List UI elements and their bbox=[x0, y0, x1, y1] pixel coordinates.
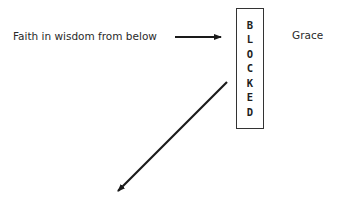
blocked-letter: L bbox=[247, 32, 253, 47]
blocked-letter: D bbox=[247, 105, 253, 120]
diagonal-arrow-icon bbox=[118, 82, 227, 191]
blocked-letter: O bbox=[247, 47, 253, 62]
blocked-letter: K bbox=[247, 76, 253, 91]
faith-label: Faith in wisdom from below bbox=[13, 29, 157, 43]
blocked-box: B L O C K E D bbox=[236, 8, 264, 129]
blocked-letter: C bbox=[247, 61, 253, 76]
grace-label: Grace bbox=[292, 28, 323, 42]
blocked-letter: E bbox=[247, 90, 253, 105]
diagram-canvas: Faith in wisdom from below B L O C K E D… bbox=[0, 0, 340, 202]
blocked-letter: B bbox=[247, 18, 253, 33]
